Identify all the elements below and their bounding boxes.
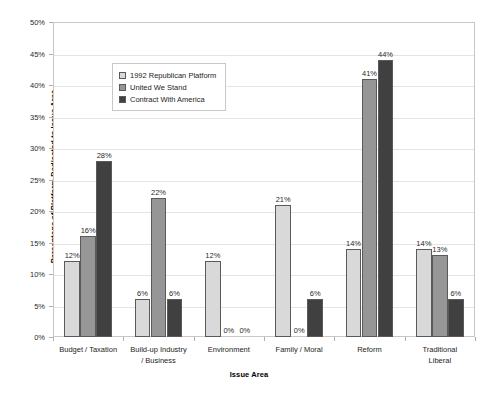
x-axis-title: Issue Area	[0, 370, 498, 379]
bar-group: 14%41%44%	[346, 22, 394, 337]
bar[interactable]	[205, 261, 221, 337]
x-tick-mark	[405, 337, 406, 341]
bar[interactable]	[64, 261, 80, 337]
bar-value-label: 0%	[239, 326, 250, 335]
y-tick-label: 30%	[0, 144, 45, 153]
x-category-label: Budget / Taxation	[59, 344, 117, 355]
x-tick-mark	[264, 337, 265, 341]
y-tick-label: 50%	[0, 18, 45, 27]
bar-value-label: 14%	[416, 239, 431, 248]
bar[interactable]	[80, 236, 96, 337]
y-tick-label: 35%	[0, 112, 45, 121]
bar-value-label: 6%	[450, 289, 461, 298]
bar-value-label: 22%	[151, 188, 166, 197]
bar-group: 14%13%6%	[416, 22, 464, 337]
bar-value-label: 44%	[378, 50, 393, 59]
bar[interactable]	[307, 299, 323, 337]
bar[interactable]	[432, 255, 448, 337]
bar-value-label: 12%	[205, 251, 220, 260]
bar[interactable]	[275, 205, 291, 337]
y-tick-label: 40%	[0, 81, 45, 90]
bar-value-label: 12%	[65, 251, 80, 260]
bar[interactable]	[416, 249, 432, 337]
y-tick-label: 20%	[0, 207, 45, 216]
bar-value-label: 6%	[137, 289, 148, 298]
bar[interactable]	[448, 299, 464, 337]
bar-value-label: 6%	[310, 289, 321, 298]
x-tick-mark	[194, 337, 195, 341]
bar[interactable]	[346, 249, 362, 337]
x-tick-mark	[475, 337, 476, 341]
bar-value-label: 6%	[169, 289, 180, 298]
legend-label: 1992 Republican Platform	[130, 71, 216, 80]
bar[interactable]	[151, 198, 167, 337]
y-tick-label: 15%	[0, 238, 45, 247]
y-tick-label: 10%	[0, 270, 45, 279]
y-tick-label: 25%	[0, 175, 45, 184]
x-tick-mark	[334, 337, 335, 341]
bar-value-label: 13%	[432, 245, 447, 254]
x-category-label: TraditionalLiberal	[422, 344, 457, 366]
bar[interactable]	[135, 299, 151, 337]
legend-label: United We Stand	[130, 83, 187, 92]
legend-item[interactable]: United We Stand	[119, 81, 216, 93]
legend-swatch-icon	[119, 72, 126, 79]
bar-value-label: 0%	[294, 326, 305, 335]
bar-value-label: 0%	[223, 326, 234, 335]
y-tick-label: 0%	[0, 333, 45, 342]
x-tick-mark	[123, 337, 124, 341]
y-tick-label: 45%	[0, 49, 45, 58]
x-category-label: Reform	[357, 344, 382, 355]
bar[interactable]	[167, 299, 183, 337]
legend-item[interactable]: 1992 Republican Platform	[119, 69, 216, 81]
bar-group: 21%0%6%	[275, 22, 323, 337]
x-tick-mark	[53, 337, 54, 341]
bar-chart: Percentage of Platform Dedicated to Issu…	[0, 0, 498, 399]
bar-value-label: 41%	[362, 69, 377, 78]
bar-value-label: 21%	[276, 195, 291, 204]
legend-label: Contract With America	[130, 95, 205, 104]
legend: 1992 Republican PlatformUnited We StandC…	[112, 63, 226, 111]
legend-swatch-icon	[119, 84, 126, 91]
x-category-label: Build-up Industry/ Business	[130, 344, 186, 366]
x-category-label: Family / Moral	[276, 344, 323, 355]
legend-item[interactable]: Contract With America	[119, 93, 216, 105]
bar[interactable]	[362, 79, 378, 337]
bar[interactable]	[378, 60, 394, 337]
legend-swatch-icon	[119, 96, 126, 103]
bar-value-label: 14%	[346, 239, 361, 248]
bar-group: 12%16%28%	[64, 22, 112, 337]
x-category-label: Environment	[208, 344, 250, 355]
y-tick-label: 5%	[0, 301, 45, 310]
bar-value-label: 16%	[81, 226, 96, 235]
bar[interactable]	[96, 161, 112, 337]
bar-value-label: 28%	[97, 151, 112, 160]
